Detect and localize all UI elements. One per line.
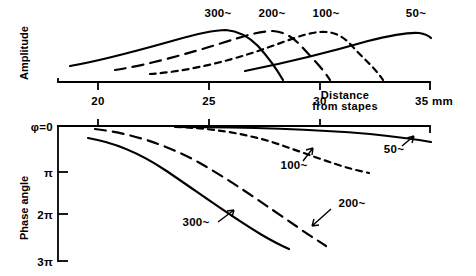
amplitude-label-200: 200~ xyxy=(258,7,285,19)
ytick-label-2pi: 2π xyxy=(37,209,53,221)
amplitude-curve-50 xyxy=(245,33,431,71)
phase-curve-50 xyxy=(178,127,431,142)
phase-curve-300 xyxy=(88,138,289,249)
x-axis-title-line2: from stapes xyxy=(312,100,378,112)
ytick-label-phi-0: φ=0 xyxy=(31,121,53,133)
xtick-label-35-mm: 35 mm xyxy=(415,95,453,107)
phase-label-300: 300~ xyxy=(182,216,209,228)
amplitude-label-100: 100~ xyxy=(312,7,339,19)
xtick-label-20: 20 xyxy=(91,95,104,107)
phase-label-50: 50~ xyxy=(384,143,404,155)
amplitude-label-50: 50~ xyxy=(406,7,426,19)
phase-panel: Phase angle φ=0 π 2π 3π 300~ 200~ 100~ 5… xyxy=(18,119,431,268)
cochlear-traveling-wave-figure: Amplitude 20 25 30 35 mm Distance from s… xyxy=(0,0,476,276)
phase-curve-200 xyxy=(95,129,326,246)
phase-label-200: 200~ xyxy=(338,197,365,209)
amplitude-label-300: 300~ xyxy=(204,7,231,19)
ytick-label-pi: π xyxy=(44,167,53,179)
amplitude-curve-300 xyxy=(70,30,283,80)
phase-axis-label: Phase angle xyxy=(18,176,30,240)
xtick-label-25: 25 xyxy=(202,95,216,107)
amplitude-panel: Amplitude 20 25 30 35 mm Distance from s… xyxy=(18,7,453,112)
amplitude-axis-label: Amplitude xyxy=(18,26,30,80)
amplitude-curve-200 xyxy=(115,31,330,80)
ytick-label-3pi: 3π xyxy=(37,256,53,268)
phase-leader-200 xyxy=(312,209,331,226)
phase-label-100: 100~ xyxy=(280,159,307,171)
